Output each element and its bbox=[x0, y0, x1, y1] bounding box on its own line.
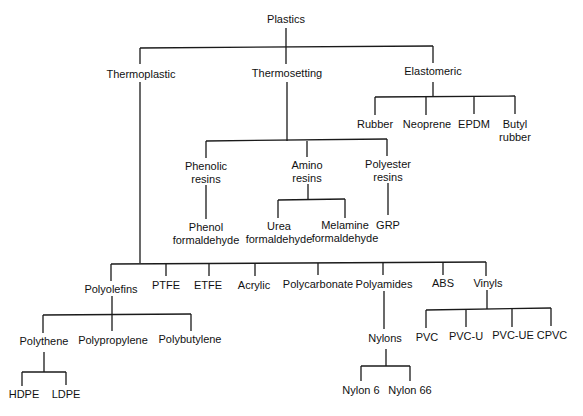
node-etfe: ETFE bbox=[194, 279, 222, 292]
node-polycarbonate: Polycarbonate bbox=[283, 278, 353, 291]
node-pvc-u: PVC-U bbox=[449, 330, 483, 343]
node-polypropylene: Polypropylene bbox=[78, 334, 148, 347]
node-epdm: EPDM bbox=[458, 118, 490, 131]
node-grp: GRP bbox=[376, 219, 400, 232]
node-pvc-ue: PVC-UE bbox=[492, 329, 534, 342]
connector-lines bbox=[0, 0, 583, 416]
node-acrylic: Acrylic bbox=[238, 279, 270, 292]
node-polythene: Polythene bbox=[20, 335, 69, 348]
node-abs: ABS bbox=[432, 277, 454, 290]
node-butyl-rubber: Butyl rubber bbox=[499, 118, 531, 144]
node-nylons: Nylons bbox=[368, 332, 402, 345]
node-ptfe: PTFE bbox=[152, 279, 180, 292]
plastics-classification-diagram: Plastics Thermoplastic Thermosetting Ela… bbox=[0, 0, 583, 416]
node-polybutylene: Polybutylene bbox=[159, 333, 222, 346]
node-melamine-formaldehyde: Melamine formaldehyde bbox=[312, 219, 379, 245]
node-elastomeric: Elastomeric bbox=[404, 65, 461, 78]
node-thermoplastic: Thermoplastic bbox=[106, 68, 175, 81]
node-neoprene: Neoprene bbox=[403, 118, 451, 131]
node-polyester-resins: Polyester resins bbox=[365, 158, 411, 184]
node-plastics: Plastics bbox=[267, 13, 305, 26]
node-amino-resins: Amino resins bbox=[291, 159, 322, 185]
node-vinyls: Vinyls bbox=[473, 277, 502, 290]
node-pvc: PVC bbox=[416, 331, 439, 344]
node-rubber: Rubber bbox=[357, 118, 393, 131]
node-nylon-66: Nylon 66 bbox=[388, 384, 431, 397]
node-polyolefins: Polyolefins bbox=[84, 283, 137, 296]
node-urea-formaldehyde: Urea formaldehyde bbox=[246, 220, 313, 246]
node-nylon-6: Nylon 6 bbox=[342, 384, 379, 397]
node-polyamides: Polyamides bbox=[356, 278, 413, 291]
node-hdpe: HDPE bbox=[9, 388, 40, 401]
node-cpvc: CPVC bbox=[537, 329, 568, 342]
node-phenolic-resins: Phenolic resins bbox=[185, 160, 227, 186]
node-ldpe: LDPE bbox=[52, 388, 81, 401]
node-phenol-formaldehyde: Phenol formaldehyde bbox=[173, 221, 240, 247]
node-thermosetting: Thermosetting bbox=[252, 67, 322, 80]
